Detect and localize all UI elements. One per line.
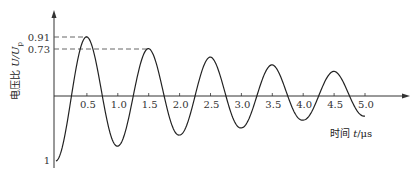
damped-oscillation-chart: 0.51.01.52.02.53.03.54.04.55.0 0.91 0.73… — [0, 0, 418, 176]
x-tick-label: 2.5 — [204, 99, 220, 110]
x-axis-title-main: 时间 — [330, 127, 353, 139]
x-tick-label: 3.5 — [265, 99, 281, 110]
x-axis-title: 时间 t/μs — [330, 127, 372, 139]
x-tick-label: 3.0 — [234, 99, 250, 110]
x-axis-title-unit: /μs — [357, 128, 372, 139]
y-axis-title-sub: p — [16, 42, 24, 47]
y-tick-label-091: 0.91 — [28, 32, 50, 43]
x-tick-label: 1.0 — [111, 99, 127, 110]
y-axis-title: 电压比 U/Up — [9, 42, 24, 100]
y-axis-arrow-icon — [52, 10, 57, 18]
x-tick-label: 5.0 — [358, 99, 374, 110]
y-axis-title-main: 电压比 — [9, 67, 21, 100]
x-tick-label: 2.0 — [173, 99, 189, 110]
x-tick-label: 0.5 — [80, 99, 96, 110]
x-tick-label: 4.0 — [296, 99, 312, 110]
y-tick-label-073: 0.73 — [28, 44, 50, 55]
y-axis-title-var: U/U — [10, 46, 21, 67]
x-axis-arrow-icon — [402, 94, 410, 99]
x-tick-label: 1.5 — [142, 99, 158, 110]
x-tick-label: 4.5 — [327, 99, 343, 110]
y-tick-label-neg1: 1 — [44, 155, 50, 166]
